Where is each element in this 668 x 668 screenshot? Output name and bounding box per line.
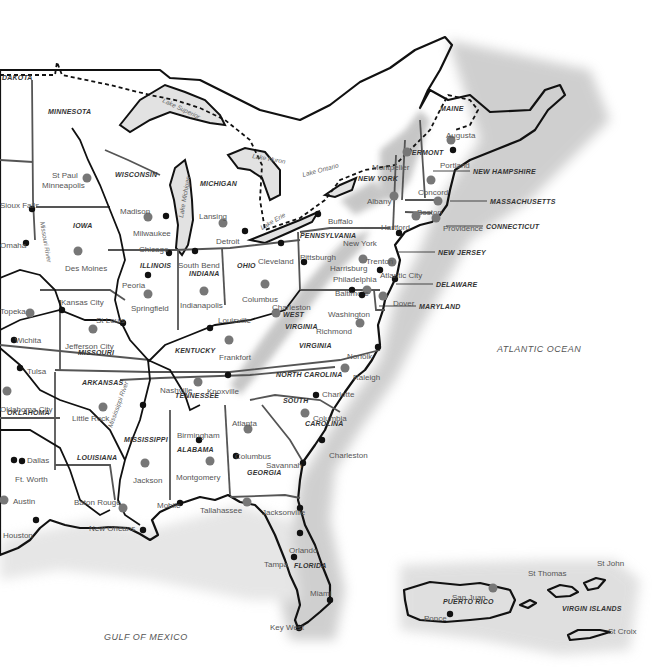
city-label-wichita[interactable]: Wichita [15,336,42,345]
capital-label-raleigh[interactable]: Raleigh [353,373,380,382]
city-label-detroit[interactable]: Detroit [216,237,240,246]
city-marker[interactable] [319,437,325,443]
capital-label-des-moines[interactable]: Des Moines [65,264,107,273]
city-marker[interactable] [59,307,65,313]
capital-marker[interactable] [99,403,108,412]
capital-marker[interactable] [403,148,412,157]
city-marker[interactable] [450,147,456,153]
capital-label-richmond[interactable]: Richmond [316,327,352,336]
city-label-pittsburgh[interactable]: Pittsburgh [300,253,336,262]
capital-label-charleston[interactable]: Charleston [272,303,311,312]
capital-marker[interactable] [74,247,83,256]
city-marker[interactable] [447,611,453,617]
capital-label-albany[interactable]: Albany [367,197,391,206]
capital-label-hartford[interactable]: Hartford [381,223,410,232]
city-label-portland[interactable]: Portland [440,161,470,170]
capital-marker[interactable] [243,498,252,507]
capital-label-columbia[interactable]: Columbia [313,414,347,423]
city-label-south-bend[interactable]: South Bend [178,261,220,270]
capital-marker[interactable] [3,387,12,396]
city-label-atlantic-city[interactable]: Atlantic City [380,271,422,280]
city-label-birmingham[interactable]: Birmingham [177,431,220,440]
capital-label-jackson[interactable]: Jackson [133,476,162,485]
city-label-key-west[interactable]: Key West [270,623,305,632]
city-label-sioux-falls[interactable]: Sioux Falls [0,201,39,210]
capital-label-montpelier[interactable]: Montpelier [372,163,410,172]
capital-label-jefferson-city[interactable]: Jefferson City [65,342,114,351]
capital-marker[interactable] [301,409,310,418]
city-marker[interactable] [163,213,169,219]
capital-marker[interactable] [427,176,436,185]
capital-label-concord[interactable]: Concord [418,188,448,197]
city-label-tulsa[interactable]: Tulsa [27,367,47,376]
capital-label-minneapolis[interactable]: St Paul [52,171,78,180]
city-label-tampa[interactable]: Tampa [264,560,289,569]
capital-label-oklahoma-city[interactable]: Oklahoma City [0,405,52,414]
city-marker[interactable] [145,272,151,278]
city-marker[interactable] [297,530,303,536]
city-marker[interactable] [396,230,402,236]
capital-marker[interactable] [206,457,215,466]
city-marker[interactable] [33,517,39,523]
city-label-philadelphia[interactable]: Philadelphia [333,275,377,284]
capital-marker[interactable] [261,280,270,289]
capital-label-san-juan[interactable]: San Juan [452,593,486,602]
capital-marker[interactable] [144,290,153,299]
capital-marker[interactable] [432,214,441,223]
capital-marker[interactable] [379,292,388,301]
capital-label-augusta[interactable]: Augusta [446,131,476,140]
city-label-chicago[interactable]: Chicago [139,245,169,254]
capital-label-indianapolis[interactable]: Indianapolis [180,301,223,310]
city-label-orlando[interactable]: Orlando [289,546,318,555]
city-label-omaha[interactable]: Omaha [0,241,27,250]
map-canvas[interactable]: DAKOTAMINNESOTAWISCONSINMICHIGANIOWAILLI… [0,0,668,668]
city-label-dallas[interactable]: Dallas [27,456,49,465]
city-label-charlotte[interactable]: Charlotte [322,390,355,399]
city-marker[interactable] [225,372,231,378]
capital-marker[interactable] [0,496,9,505]
capital-marker[interactable] [489,584,498,593]
city-label-cleveland[interactable]: Cleveland [258,257,294,266]
capital-marker[interactable] [341,364,350,373]
capital-label-madison[interactable]: Madison [120,207,150,216]
city-label-kansas-city[interactable]: Kansas City [61,298,104,307]
capital-label-harrisburg[interactable]: Harrisburg [330,264,367,273]
city-marker[interactable] [242,228,248,234]
city-marker[interactable] [291,554,297,560]
capital-label-nashville[interactable]: Nashville [160,386,193,395]
city-marker[interactable] [207,325,213,331]
capital-marker[interactable] [434,197,443,206]
capital-label-springfield[interactable]: Springfield [131,304,169,313]
city-marker[interactable] [315,211,321,217]
capital-label-little-rock[interactable]: Little Rock [72,414,110,423]
capital-label-frankfort[interactable]: Frankfort [219,353,252,362]
city-label-jacksonville[interactable]: Jacksonville [262,508,306,517]
city-label-houston[interactable]: Houston [3,531,33,540]
capital-label-austin[interactable]: Austin [13,497,35,506]
city-marker[interactable] [11,457,17,463]
city-marker[interactable] [313,392,319,398]
capital-marker[interactable] [200,287,209,296]
capital-label-baton-rouge[interactable]: Baton Rouge [74,498,121,507]
city-marker[interactable] [375,344,381,350]
city-label-norfolk[interactable]: Norfolk [347,352,373,361]
capital-marker[interactable] [89,325,98,334]
capital-marker[interactable] [412,212,421,221]
city-label-new-orleans[interactable]: New Orleans [89,524,135,533]
city-marker[interactable] [140,402,146,408]
city-label-ponce[interactable]: Ponce [424,614,447,623]
city-label-washington[interactable]: Washington [328,310,370,319]
city-marker[interactable] [17,365,23,371]
city-label-buffalo[interactable]: Buffalo [328,217,353,226]
capital-label-atlanta[interactable]: Atlanta [232,419,257,428]
city-label-minneapolis[interactable]: Minneapolis [42,181,85,190]
capital-label-montgomery[interactable]: Montgomery [176,473,220,482]
capital-label-topeka[interactable]: Topeka [0,307,26,316]
capital-marker[interactable] [26,309,35,318]
capital-marker[interactable] [225,336,234,345]
city-label-louisville[interactable]: Louisville [218,316,251,325]
city-marker[interactable] [359,292,365,298]
capital-label-providence[interactable]: Providence [443,224,484,233]
city-marker[interactable] [278,240,284,246]
capital-marker[interactable] [141,459,150,468]
